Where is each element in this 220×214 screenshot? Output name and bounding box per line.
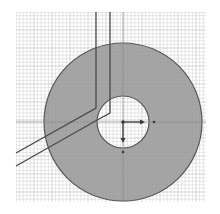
x-handle-dot-icon[interactable]	[153, 121, 156, 124]
origin-point-icon[interactable]	[121, 120, 125, 124]
y-arrowhead-icon	[121, 138, 126, 143]
sketch-canvas[interactable]	[0, 0, 220, 214]
y-handle-dot-icon[interactable]	[122, 151, 125, 154]
